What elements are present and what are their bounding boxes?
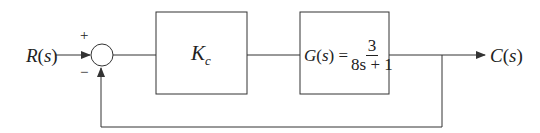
denominator: 8s + 1 bbox=[351, 56, 393, 74]
plant-transfer-function: G(s) = 3 8s + 1 bbox=[304, 37, 393, 74]
summing-junction bbox=[91, 44, 113, 66]
input-label: R(s) bbox=[26, 45, 58, 67]
numerator: 3 bbox=[366, 37, 379, 56]
controller-label: Kc bbox=[191, 41, 211, 69]
block-diagram: R(s) + − Kc G(s) = 3 8s + 1 C(s) bbox=[0, 0, 540, 133]
output-label: C(s) bbox=[490, 45, 523, 67]
minus-sign: − bbox=[80, 64, 88, 81]
transfer-fraction: 3 8s + 1 bbox=[351, 37, 393, 74]
plus-sign: + bbox=[80, 27, 88, 44]
